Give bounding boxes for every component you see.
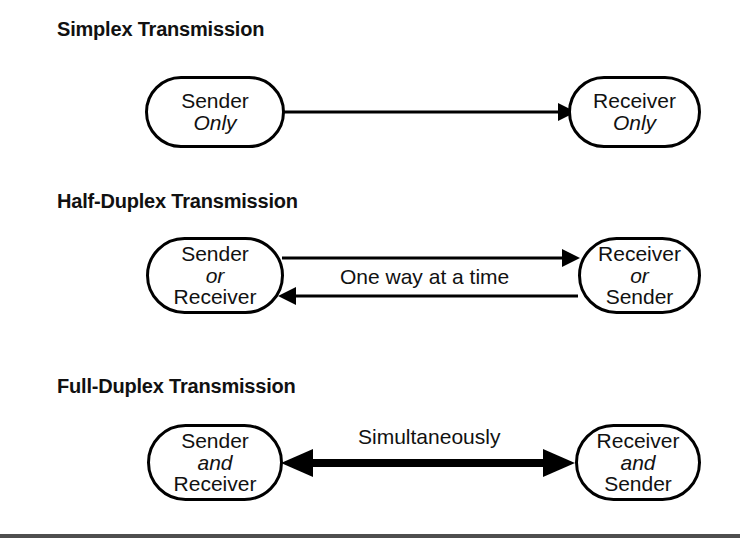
node-simplex-sender: Sender Only — [145, 76, 285, 148]
node-line-2: Only — [613, 112, 656, 134]
connector-full-duplex-arrow-bidirectional — [281, 446, 575, 480]
node-full-duplex-left: Sender and Receiver — [147, 424, 283, 501]
node-line-1: Receiver — [597, 430, 680, 452]
edge-label-half-duplex: One way at a time — [337, 265, 512, 289]
section-title-simplex: Simplex Transmission — [57, 18, 264, 41]
node-line-3: Receiver — [174, 473, 257, 495]
diagram-canvas: Simplex Transmission Sender Only Receive… — [0, 0, 740, 548]
node-line-3: Sender — [604, 473, 672, 495]
section-title-half-duplex: Half-Duplex Transmission — [57, 190, 298, 213]
connector-simplex-arrow — [280, 92, 576, 132]
node-line-2: or — [630, 265, 649, 287]
node-line-1: Sender — [181, 243, 249, 265]
node-line-1: Sender — [181, 90, 249, 112]
node-half-duplex-right: Receiver or Sender — [578, 237, 701, 314]
section-title-full-duplex: Full-Duplex Transmission — [57, 375, 296, 398]
node-line-1: Receiver — [593, 90, 676, 112]
node-half-duplex-left: Sender or Receiver — [146, 237, 284, 314]
node-line-2: Only — [193, 112, 236, 134]
node-line-2: or — [206, 265, 225, 287]
node-simplex-receiver: Receiver Only — [568, 76, 701, 148]
node-full-duplex-right: Receiver and Sender — [575, 424, 701, 501]
node-line-2: and — [197, 452, 232, 474]
footer-divider — [0, 534, 740, 538]
node-line-1: Receiver — [598, 243, 681, 265]
node-line-2: and — [620, 452, 655, 474]
edge-label-full-duplex: Simultaneously — [355, 425, 503, 449]
node-line-3: Sender — [606, 286, 674, 308]
node-line-1: Sender — [181, 430, 249, 452]
node-line-3: Receiver — [174, 286, 257, 308]
